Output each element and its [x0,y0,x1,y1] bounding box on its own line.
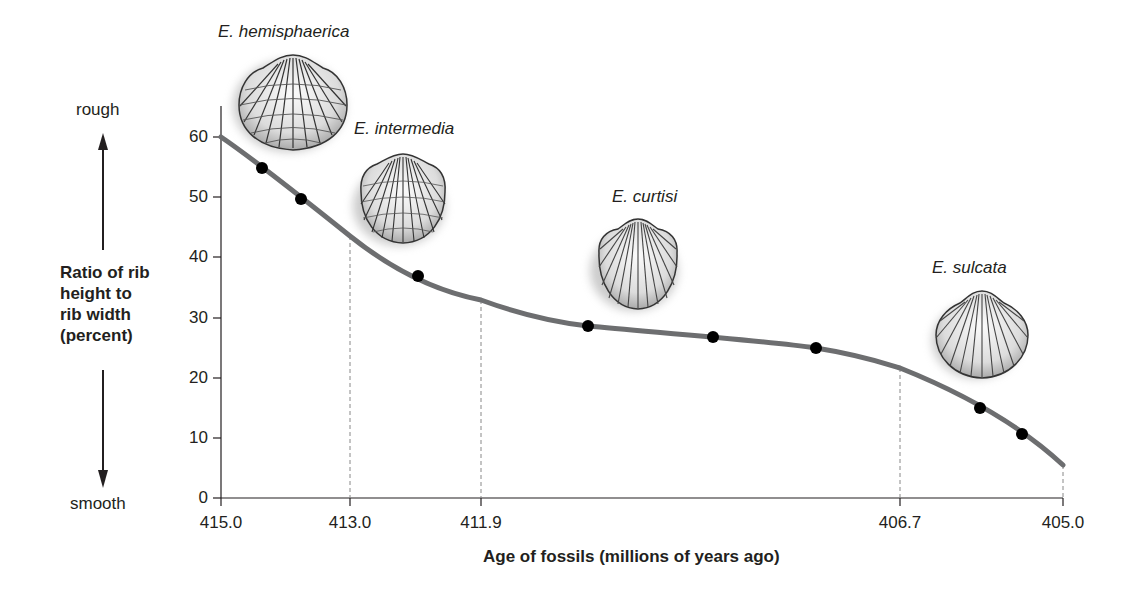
x-tick-label: 405.0 [1042,513,1085,533]
y-axis-label-line: rib width [60,304,150,325]
shell-curtisi-icon [590,219,678,311]
x-tick-label: 406.7 [879,513,922,533]
rough-arrow-icon [98,133,108,250]
y-tick-label: 10 [168,428,208,448]
species-label-hemisphaerica: E. hemisphaerica [218,22,349,42]
x-tick-label: 411.9 [460,513,501,533]
species-label-intermedia: E. intermedia [354,119,454,139]
y-tick-label: 20 [168,368,208,388]
y-tick-label: 30 [168,308,208,328]
chart-canvas [0,0,1147,599]
shell-intermedia-icon [353,154,445,246]
data-point [810,342,822,354]
x-axis [221,498,1063,506]
y-axis-label-line: height to [60,283,150,304]
shell-sulcata-icon [932,291,1028,379]
data-point [582,320,594,332]
x-tick-label: 415.0 [200,513,243,533]
x-tick-label: 413.0 [329,513,372,533]
species-label-curtisi: E. curtisi [612,187,677,207]
data-point [256,162,268,174]
y-tick-label: 40 [168,247,208,267]
data-point [412,270,424,282]
shell-hemisphaerica-icon [233,55,347,152]
data-point [707,331,719,343]
rough-label: rough [76,100,119,120]
y-tick-label: 50 [168,187,208,207]
smooth-arrow-icon [98,370,108,488]
smooth-label: smooth [70,494,126,514]
y-axis [213,106,221,498]
x-axis-label: Age of fossils (millions of years ago) [483,547,780,567]
data-point [1016,428,1028,440]
data-point [295,193,307,205]
y-axis-label-line: Ratio of rib [60,262,150,283]
y-axis-label-line: (percent) [60,325,150,346]
y-tick-label: 0 [168,488,208,508]
data-point [974,402,986,414]
y-tick-label: 60 [168,127,208,147]
y-axis-label: Ratio of rib height to rib width (percen… [60,262,150,346]
species-label-sulcata: E. sulcata [932,258,1007,278]
